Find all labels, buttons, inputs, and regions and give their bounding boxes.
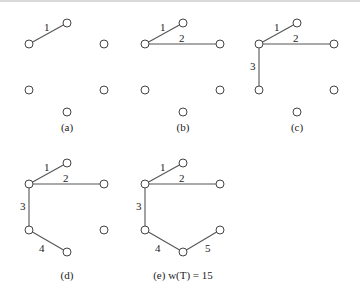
vertex-b [141, 180, 149, 188]
vertex-d [25, 86, 33, 94]
edge-weight-1: 1 [44, 161, 50, 173]
vertex-f [293, 108, 301, 116]
edge-weight-3: 3 [136, 200, 142, 212]
edge-weight-4: 4 [155, 242, 161, 254]
vertex-c [330, 40, 338, 48]
edge-4 [145, 230, 183, 252]
vertex-e [330, 86, 338, 94]
edge-weight-4: 4 [39, 242, 45, 254]
edge-weight-1: 1 [274, 21, 280, 33]
vertex-a [293, 19, 301, 27]
vertex-c [100, 40, 108, 48]
vertex-f [63, 108, 71, 116]
vertex-d [141, 86, 149, 94]
vertex-b [25, 180, 33, 188]
vertex-a [179, 159, 187, 167]
vertex-a [179, 19, 187, 27]
vertex-c [216, 180, 224, 188]
edge-weight-1: 1 [160, 21, 166, 33]
vertex-f [63, 248, 71, 256]
panel-b: 1 2 (b) [141, 19, 224, 134]
caption-e: (e) w(T) = 15 [153, 269, 213, 282]
panel-d: 1 2 3 4 (d) [20, 159, 108, 282]
vertex-e [100, 86, 108, 94]
panel-a: 1 (a) [25, 19, 108, 134]
edge-weight-1: 1 [44, 21, 50, 33]
edge-weight-3: 3 [20, 200, 26, 212]
edge-weight-5: 5 [205, 242, 211, 254]
vertex-e [100, 226, 108, 234]
edge-weight-3: 3 [250, 60, 256, 72]
edge-weight-2: 2 [179, 172, 185, 184]
vertex-b [141, 40, 149, 48]
caption-d: (d) [61, 269, 74, 282]
vertex-d [25, 226, 33, 234]
vertex-e [216, 86, 224, 94]
vertex-e [216, 226, 224, 234]
vertex-b [25, 40, 33, 48]
edge-4 [29, 230, 67, 252]
caption-c: (c) [291, 121, 304, 134]
vertex-b [255, 40, 263, 48]
mst-diagram: 1 (a) 1 2 (b) 1 2 3 (c) [0, 0, 360, 297]
vertex-c [100, 180, 108, 188]
edge-weight-2: 2 [179, 32, 185, 44]
vertex-a [63, 159, 71, 167]
edge-weight-1: 1 [160, 161, 166, 173]
vertex-f [179, 108, 187, 116]
edge-weight-2: 2 [63, 172, 69, 184]
vertex-d [141, 226, 149, 234]
edge-weight-2: 2 [293, 32, 299, 44]
panel-e: 1 2 3 4 5 (e) w(T) = 15 [136, 159, 224, 282]
vertex-a [63, 19, 71, 27]
vertex-c [216, 40, 224, 48]
edge-5 [183, 230, 220, 252]
vertex-f [179, 248, 187, 256]
vertex-d [255, 86, 263, 94]
panel-c: 1 2 3 (c) [250, 19, 338, 134]
caption-a: (a) [61, 121, 74, 134]
caption-b: (b) [177, 121, 190, 134]
